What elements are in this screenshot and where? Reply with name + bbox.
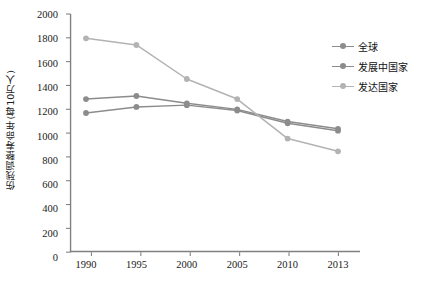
legend-label: 发达国家 <box>358 79 398 94</box>
x-tick-label: 2013 <box>313 259 363 270</box>
data-point <box>134 42 140 48</box>
data-point <box>83 110 89 116</box>
x-tick-label: 1990 <box>61 259 111 270</box>
y-tick-label: 600 <box>18 179 58 190</box>
y-tick-label: 2000 <box>18 9 58 20</box>
data-point <box>134 104 140 110</box>
y-tick-label: 1400 <box>18 81 58 92</box>
y-tick-label: 1800 <box>18 33 58 44</box>
legend-marker-icon <box>332 42 354 52</box>
y-tick-label: 200 <box>18 227 58 238</box>
y-tick-label: 0 <box>18 252 58 263</box>
y-tick-label: 800 <box>18 154 58 165</box>
data-point <box>134 93 140 99</box>
x-tick-label: 1995 <box>111 259 161 270</box>
legend-item[interactable]: 全球 <box>332 38 424 55</box>
x-tick-label: 2000 <box>162 259 212 270</box>
legend-item[interactable]: 发展中国家 <box>332 58 424 75</box>
data-point <box>184 76 190 82</box>
y-axis-tick-labels: 0200400600800100012001400160018002000 <box>16 14 58 257</box>
y-tick-label: 1600 <box>18 57 58 68</box>
series-layer <box>64 14 360 257</box>
plot-area <box>64 14 360 257</box>
series-line <box>86 105 338 131</box>
y-tick-label: 1000 <box>18 130 58 141</box>
data-point <box>335 126 341 132</box>
x-tick-label: 2010 <box>263 259 313 270</box>
y-tick-label: 1200 <box>18 106 58 117</box>
chart-container: 伤残调整寿命年(每10万人) 0200400600800100012001400… <box>0 0 424 281</box>
series-line <box>86 38 338 151</box>
legend-marker-icon <box>332 82 354 92</box>
x-axis-tick-labels: 199019952000200520102013 <box>64 259 360 279</box>
data-point <box>234 96 240 102</box>
legend-label: 发展中国家 <box>358 59 408 74</box>
data-point <box>285 136 291 142</box>
data-point <box>83 96 89 102</box>
legend-marker-icon <box>332 62 354 72</box>
data-point <box>285 119 291 125</box>
data-point <box>184 100 190 106</box>
legend-label: 全球 <box>358 39 378 54</box>
x-tick-label: 2005 <box>212 259 262 270</box>
legend-item[interactable]: 发达国家 <box>332 78 424 95</box>
data-point <box>234 106 240 112</box>
legend: 全球发展中国家发达国家 <box>332 38 424 98</box>
y-tick-label: 400 <box>18 203 58 214</box>
data-point <box>335 148 341 154</box>
data-point <box>83 35 89 41</box>
series-line <box>86 96 338 129</box>
